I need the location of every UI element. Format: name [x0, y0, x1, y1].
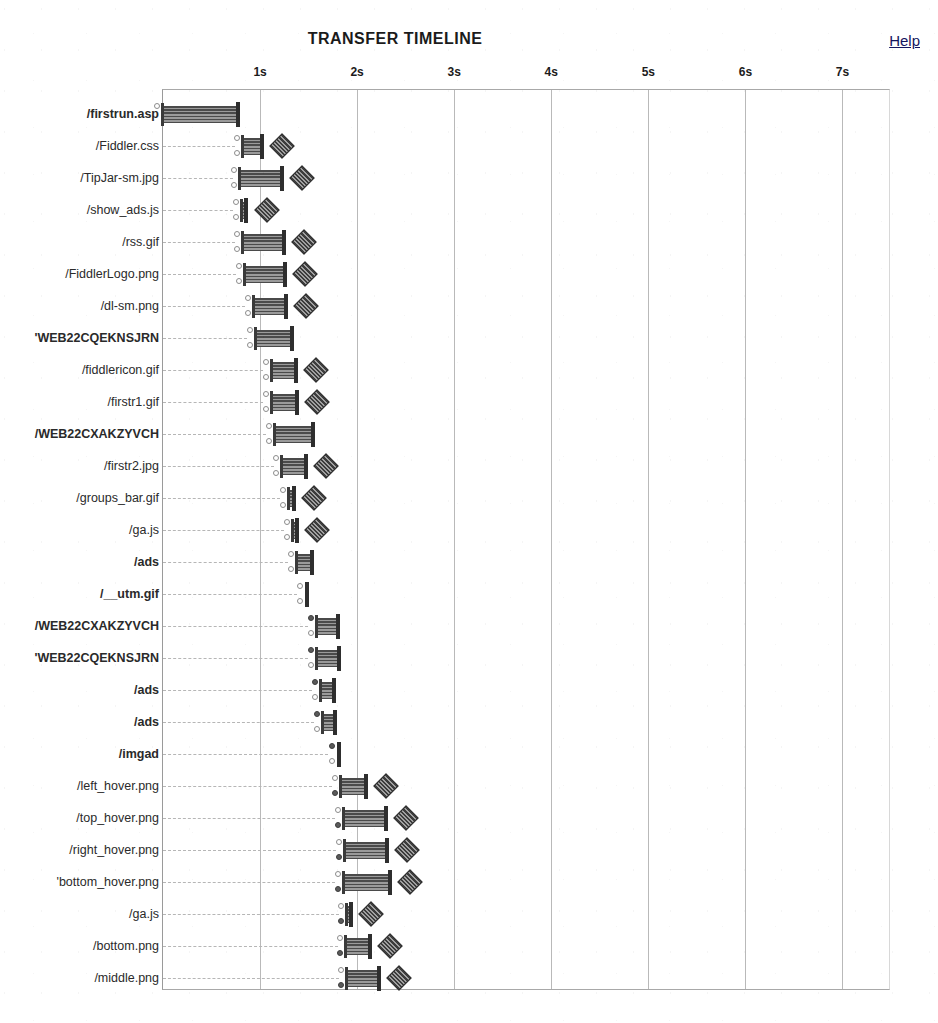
row-label: /ga.js [129, 523, 159, 537]
timeline-row[interactable]: /ga.js [163, 898, 889, 930]
dns-marker-icon [284, 534, 290, 540]
transfer-bar[interactable] [297, 554, 311, 571]
row-label: /rss.gif [122, 235, 159, 249]
connect-marker-icon [297, 583, 303, 589]
transfer-bar[interactable] [240, 170, 282, 187]
timeline-row[interactable]: /top_hover.png [163, 802, 889, 834]
dns-marker-icon [280, 502, 286, 508]
leader-line [163, 402, 263, 403]
x-axis-tick-label: 6s [739, 65, 752, 79]
transfer-bar[interactable] [282, 458, 304, 475]
timeline-row[interactable]: 'WEB22CQEKNSJRN [163, 322, 889, 354]
connect-marker-icon [234, 135, 240, 141]
transfer-bar[interactable] [323, 714, 334, 731]
transfer-bar[interactable] [275, 426, 312, 443]
row-label: 'WEB22CQEKNSJRN [34, 651, 159, 665]
transfer-bar[interactable] [344, 874, 390, 891]
client-done-diamond-icon [304, 389, 329, 414]
transfer-bar[interactable] [243, 138, 261, 155]
client-done-diamond-icon [294, 293, 319, 318]
timeline-row[interactable]: /Fiddler.css [163, 130, 889, 162]
client-done-diamond-icon [303, 357, 328, 382]
transfer-bar[interactable] [345, 842, 387, 859]
timeline-plot-area: 1s2s3s4s5s6s7s/firstrun.asp/Fiddler.css/… [162, 89, 890, 990]
leader-line [163, 722, 314, 723]
leader-line [163, 530, 284, 531]
transfer-bar[interactable] [344, 810, 386, 827]
leader-line [163, 754, 328, 755]
transfer-bar[interactable] [256, 330, 291, 347]
timeline-row[interactable]: /show_ads.js [163, 194, 889, 226]
dns-marker-icon [308, 662, 314, 668]
connect-marker-icon [335, 871, 341, 877]
transfer-bar[interactable] [254, 298, 285, 315]
transfer-bar[interactable] [347, 906, 350, 923]
transfer-bar[interactable] [317, 618, 336, 635]
timeline-row[interactable]: /FiddlerLogo.png [163, 258, 889, 290]
timeline-row[interactable]: /middle.png [163, 962, 889, 994]
leader-line [163, 690, 312, 691]
row-label: /show_ads.js [87, 203, 159, 217]
timeline-row[interactable]: /right_hover.png [163, 834, 889, 866]
timeline-row[interactable]: /WEB22CXAKZYVCH [163, 610, 889, 642]
connect-marker-icon [247, 327, 253, 333]
leader-line [163, 498, 280, 499]
transfer-bar[interactable] [163, 106, 237, 123]
transfer-bar[interactable] [341, 778, 365, 795]
timeline-row[interactable]: /firstrun.asp [163, 98, 889, 130]
timeline-row[interactable]: /ads [163, 674, 889, 706]
dns-marker-icon [338, 918, 344, 924]
leader-line [163, 466, 274, 467]
dns-marker-icon [288, 566, 294, 572]
timeline-row[interactable]: /WEB22CXAKZYVCH [163, 418, 889, 450]
transfer-bar[interactable] [272, 394, 296, 411]
timeline-row[interactable]: /imgad [163, 738, 889, 770]
dns-marker-icon [234, 246, 240, 252]
row-label: /TipJar-sm.jpg [80, 171, 159, 185]
transfer-bar[interactable] [321, 682, 333, 699]
timeline-row[interactable]: /left_hover.png [163, 770, 889, 802]
connect-marker-icon [338, 967, 344, 973]
connect-marker-icon [312, 679, 318, 685]
client-done-diamond-icon [301, 485, 326, 510]
transfer-bar[interactable] [243, 234, 284, 251]
x-axis-tick-label: 1s [253, 65, 266, 79]
transfer-bar[interactable] [272, 362, 295, 379]
dns-marker-icon [263, 406, 269, 412]
client-done-diamond-icon [397, 869, 422, 894]
timeline-row[interactable]: 'WEB22CQEKNSJRN [163, 642, 889, 674]
row-label: /groups_bar.gif [76, 491, 159, 505]
leader-line [163, 914, 339, 915]
timeline-row[interactable]: /fiddlericon.gif [163, 354, 889, 386]
timeline-row[interactable]: 'bottom_hover.png [163, 866, 889, 898]
dns-marker-icon [297, 598, 303, 604]
timeline-row[interactable]: /dl-sm.png [163, 290, 889, 322]
timeline-row[interactable]: /bottom.png [163, 930, 889, 962]
dns-marker-icon [336, 854, 342, 860]
transfer-bar[interactable] [245, 266, 285, 283]
leader-line [163, 242, 235, 243]
row-label: /ads [134, 715, 159, 729]
transfer-bar[interactable] [347, 970, 377, 987]
transfer-bar[interactable] [293, 522, 296, 539]
transfer-bar[interactable] [242, 202, 246, 219]
timeline-row[interactable]: /rss.gif [163, 226, 889, 258]
transfer-bar[interactable] [317, 650, 337, 667]
x-axis-tick-label: 2s [350, 65, 363, 79]
timeline-row[interactable]: /TipJar-sm.jpg [163, 162, 889, 194]
dns-marker-icon [335, 886, 341, 892]
row-label: /fiddlericon.gif [82, 363, 159, 377]
transfer-bar[interactable] [346, 938, 368, 955]
client-done-diamond-icon [359, 901, 384, 926]
timeline-row[interactable]: /ads [163, 706, 889, 738]
timeline-row[interactable]: /firstr1.gif [163, 386, 889, 418]
timeline-row[interactable]: /ga.js [163, 514, 889, 546]
help-link[interactable]: Help [889, 32, 920, 49]
timeline-row[interactable]: /firstr2.jpg [163, 450, 889, 482]
timeline-row[interactable]: /__utm.gif [163, 578, 889, 610]
timeline-row[interactable]: /ads [163, 546, 889, 578]
dns-marker-icon [234, 150, 240, 156]
timeline-row[interactable]: /groups_bar.gif [163, 482, 889, 514]
transfer-bar[interactable] [289, 490, 293, 507]
connect-marker-icon [308, 647, 314, 653]
